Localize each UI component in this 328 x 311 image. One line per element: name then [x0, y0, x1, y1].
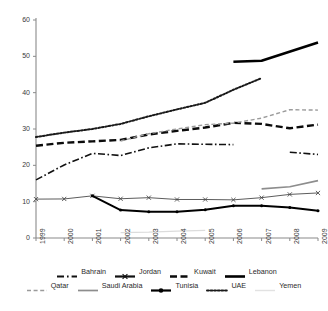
- chart-legend: BahrainJordanKuwaitLebanonQatarSaudi Ara…: [0, 264, 327, 292]
- legend-key-icon: [56, 272, 78, 281]
- legend-swatch: [114, 267, 136, 276]
- legend-key-icon: [150, 286, 172, 295]
- legend-swatch: [254, 281, 276, 290]
- series-kuwait: [36, 123, 318, 146]
- x-axis-label: 2004: [180, 228, 187, 244]
- legend-row: BahrainJordanKuwaitLebanon: [0, 264, 327, 278]
- legend-swatch: [206, 281, 228, 290]
- y-axis-label: 10: [14, 198, 30, 205]
- legend-swatch: [56, 267, 78, 276]
- legend-label: UAE: [231, 281, 246, 290]
- legend-item-uae[interactable]: UAE: [206, 281, 246, 290]
- x-axis-label: 2001: [95, 228, 102, 244]
- series-line: [290, 152, 318, 154]
- series-line: [233, 43, 318, 62]
- y-axis-label: 20: [14, 161, 30, 168]
- legend-label: Saudi Arabia: [102, 281, 143, 290]
- legend-swatch: [26, 281, 48, 290]
- data-point: [260, 204, 263, 207]
- data-point: [119, 209, 122, 212]
- series-saudi-arabia: [262, 181, 318, 189]
- series-yemen: [121, 230, 206, 232]
- series-tunisia: [91, 194, 320, 213]
- legend-swatch: [77, 281, 99, 290]
- data-point: [176, 210, 179, 213]
- x-axis-label: 2009: [321, 228, 328, 244]
- series-line: [36, 144, 233, 180]
- legend-key-icon: [224, 272, 246, 281]
- y-axis-label: 50: [14, 52, 30, 59]
- legend-label: Qatar: [51, 281, 69, 290]
- legend-item-bahrain[interactable]: Bahrain: [56, 267, 106, 276]
- x-axis-label: 2000: [67, 228, 74, 244]
- legend-key-icon: [169, 272, 191, 281]
- x-axis-label: 2008: [293, 228, 300, 244]
- y-axis-label: 60: [14, 16, 30, 23]
- legend-label: Tunisia: [175, 281, 198, 290]
- series-bahrain: [36, 144, 318, 180]
- legend-item-qatar[interactable]: Qatar: [26, 281, 69, 290]
- legend-key-icon: [114, 272, 136, 281]
- legend-item-tunisia[interactable]: Tunisia: [150, 281, 198, 290]
- data-point: [317, 209, 320, 212]
- series-line: [36, 123, 318, 146]
- data-point: [232, 204, 235, 207]
- y-axis-label: 30: [14, 125, 30, 132]
- series-line: [36, 193, 318, 200]
- legend-label: Yemen: [279, 281, 301, 290]
- legend-swatch: [224, 267, 246, 276]
- legend-swatch: [169, 267, 191, 276]
- series-line: [262, 181, 318, 189]
- legend-swatch: [150, 281, 172, 290]
- data-point: [204, 208, 207, 211]
- series-lebanon: [233, 43, 318, 62]
- legend-key-icon: [77, 286, 99, 295]
- legend-item-jordan[interactable]: Jordan: [114, 267, 161, 276]
- legend-key-icon: [26, 286, 48, 295]
- legend-row: QatarSaudi ArabiaTunisiaUAEYemen: [0, 278, 327, 292]
- legend-item-saudi-arabia[interactable]: Saudi Arabia: [77, 281, 143, 290]
- y-axis-label: 0: [14, 234, 30, 241]
- series-line: [121, 230, 206, 232]
- legend-key-icon: [206, 286, 228, 295]
- series-line: [36, 78, 262, 137]
- legend-label: Jordan: [139, 267, 161, 276]
- x-axis-label: 2006: [236, 228, 243, 244]
- series-jordan: [34, 191, 320, 202]
- x-axis-label: 2002: [124, 228, 131, 244]
- y-axis-label: 40: [14, 89, 30, 96]
- legend-item-yemen[interactable]: Yemen: [254, 281, 301, 290]
- data-point: [288, 206, 291, 209]
- x-axis-label: 2005: [208, 228, 215, 244]
- legend-key-icon: [254, 286, 276, 295]
- data-point: [91, 194, 94, 197]
- x-axis-label: 2003: [152, 228, 159, 244]
- legend-label: Kuwait: [194, 267, 216, 276]
- legend-label: Bahrain: [81, 267, 106, 276]
- x-axis-label: 1999: [39, 228, 46, 244]
- legend-label: Lebanon: [249, 267, 277, 276]
- legend-item-lebanon[interactable]: Lebanon: [224, 267, 277, 276]
- series-uae: [36, 78, 262, 137]
- x-axis-label: 2007: [265, 228, 272, 244]
- legend-item-kuwait[interactable]: Kuwait: [169, 267, 216, 276]
- data-point: [147, 210, 150, 213]
